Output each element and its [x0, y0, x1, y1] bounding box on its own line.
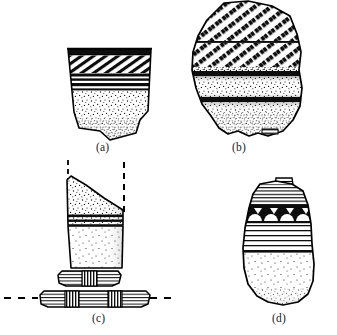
specimen-c-lug-knot-2 — [65, 291, 79, 307]
specimen-d-line-band-lower — [240, 224, 318, 251]
specimen-c-lug-knot-3 — [108, 291, 122, 307]
specimen-c-lug-detached — [40, 291, 150, 307]
caption-a: (a) — [96, 141, 109, 153]
specimen-d-triangle-band — [240, 207, 318, 223]
specimen-c-lug-knot-1 — [82, 271, 97, 286]
specimen-a-rim-band — [60, 49, 160, 54]
specimen-a-hatch-band — [60, 56, 160, 74]
caption-b: (b) — [232, 141, 246, 153]
specimen-b-base-tab — [262, 129, 278, 134]
specimen-b-dark-band-2 — [185, 97, 310, 102]
caption-c: (c) — [92, 312, 105, 324]
caption-d: (d) — [272, 312, 286, 324]
specimen-c-lug-attached — [58, 271, 121, 286]
figure-plate — [0, 0, 337, 335]
specimen-b-hatch-zone-lower — [185, 43, 310, 71]
